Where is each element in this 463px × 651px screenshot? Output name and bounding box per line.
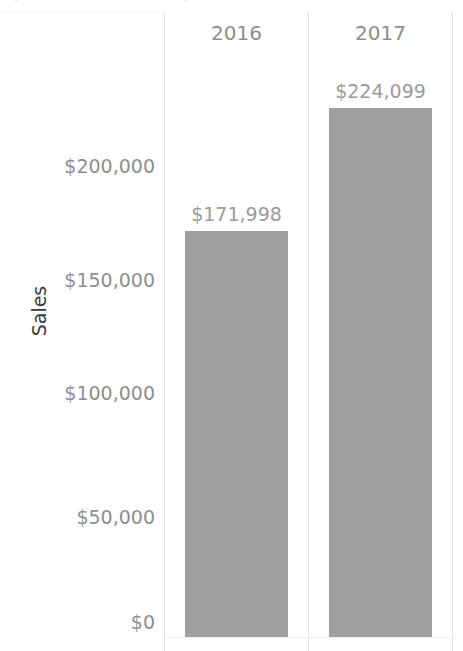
clipped-title-fragment-right: · [183,0,187,3]
y-axis-title-sales: Sales [28,266,50,356]
ytick-label-0: $0 [0,611,155,633]
pane-divider-middle [308,12,309,651]
bar-value-label-2016: $171,998 [165,203,308,225]
ytick-label-50000: $50,000 [0,506,155,528]
column-header-2016[interactable]: 2016 [165,20,308,46]
ytick-label-100000: $100,000 [0,382,155,404]
bar-2017[interactable] [329,108,432,637]
bar-value-label-2017: $224,099 [309,80,452,102]
ytick-label-200000: $200,000 [0,155,155,177]
pane-divider-left [164,12,165,651]
clipped-title-remnant: · · [0,0,463,3]
bar-2016[interactable] [185,231,288,637]
pane-divider-right [452,12,453,651]
header-rule [0,12,164,13]
baseline [165,637,452,638]
bar-chart-viz: · · 2016 2017 $200,000 $150,000 $100,000… [0,0,463,651]
column-header-2017[interactable]: 2017 [309,20,452,46]
ytick-label-150000: $150,000 [0,269,155,291]
clipped-title-fragment-left: · [14,0,18,3]
